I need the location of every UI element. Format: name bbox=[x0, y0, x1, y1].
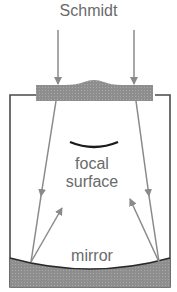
mirror-label: mirror bbox=[52, 247, 132, 265]
focal-label-line2: surface bbox=[52, 173, 132, 191]
focal-surface-label: focal surface bbox=[52, 155, 132, 191]
corrector-plate-icon bbox=[36, 80, 153, 101]
schmidt-telescope-diagram: Schmidt focal surface mirror bbox=[0, 0, 177, 292]
incoming-light-arrows-icon bbox=[58, 30, 134, 84]
diagram-title: Schmidt bbox=[0, 2, 177, 20]
focal-label-line1: focal bbox=[52, 155, 132, 173]
focal-surface-curve-icon bbox=[70, 142, 118, 147]
